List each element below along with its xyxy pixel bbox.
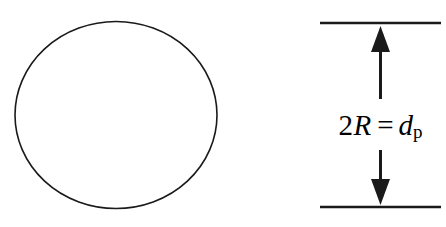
diameter-symbol: d [399,111,414,140]
up-arrow [371,26,390,99]
particle-diameter-figure: 2R=dp [0,0,446,227]
dimension-label: 2R=dp [320,104,441,146]
down-arrow [371,150,390,205]
down-arrow-head [371,179,390,205]
dimension-coefficient: 2 [338,111,353,140]
radius-symbol: R [353,111,371,140]
diameter-subscript: p [413,122,423,141]
equals-sign: = [371,111,398,140]
up-arrow-head [371,26,390,52]
